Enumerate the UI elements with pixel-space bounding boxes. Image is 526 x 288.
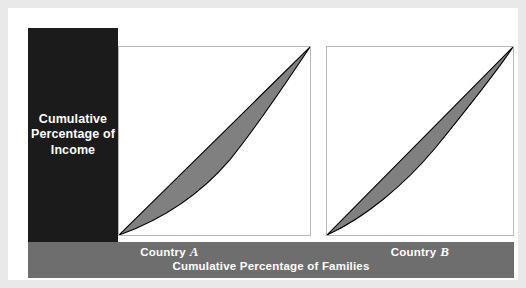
x-axis-label: Cumulative Percentage of Families <box>28 260 514 272</box>
country-a-name: Country <box>140 246 185 258</box>
figure-frame: Cumulative Percentage of Income CountryA… <box>8 8 518 280</box>
y-axis-label: Cumulative Percentage of Income <box>28 112 118 159</box>
plot-area-country-a <box>118 46 311 236</box>
country-a-code: A <box>186 244 199 259</box>
plot-area-country-b <box>326 46 514 236</box>
y-axis-label-panel: Cumulative Percentage of Income <box>28 28 118 242</box>
lorenz-curve-figure: Cumulative Percentage of Income CountryA… <box>0 0 526 288</box>
country-a-label: CountryA <box>28 244 311 260</box>
country-b-label: CountryB <box>326 244 514 260</box>
x-axis-label-band: CountryA CountryB Cumulative Percentage … <box>28 242 514 278</box>
lorenz-chart-country-b <box>327 47 513 235</box>
inequality-lens-country-a <box>119 47 310 235</box>
lorenz-chart-country-a <box>119 47 310 235</box>
country-b-name: Country <box>391 246 436 258</box>
country-b-code: B <box>436 244 449 259</box>
inequality-lens-country-b <box>327 47 513 235</box>
